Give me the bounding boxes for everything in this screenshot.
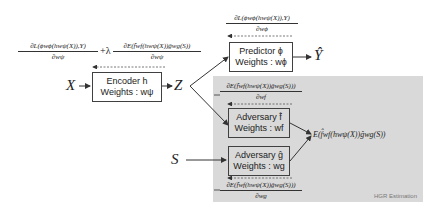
adversary-g-gradient: ∂E(f̂wf(hwψ(X))ĝwg(S))) ∂wg (220, 181, 302, 200)
adversary-g-weights: Weights : wg (229, 161, 289, 172)
encoder-box: Encoder h Weights : wψ (92, 72, 162, 102)
encoder-hgr-gradient: ∂E(f̂wf(hwψ(X))ĝwg(S)) ∂wψ (113, 42, 201, 61)
adversary-f-box: Adversary f̂ Weights : wf (228, 108, 290, 138)
expectation-output: E(f̂wf(hwψ(X))ĝwg(S)) (313, 130, 386, 139)
adversary-g-title: Adversary ĝ (229, 150, 289, 161)
latent-z: Z (174, 77, 182, 94)
plus-lambda: +λ (100, 45, 111, 56)
encoder-weights: Weights : wψ (93, 87, 161, 98)
adversary-g-box: Adversary ĝ Weights : wg (228, 146, 290, 176)
predictor-title: Predictor ϕ (230, 46, 292, 57)
sensitive-s: S (171, 151, 179, 168)
encoder-loss-gradient: ∂L(ϕwϕ(hwψ(X)),Y) ∂wψ (18, 42, 98, 61)
adversary-f-title: Adversary f̂ (229, 112, 289, 123)
predictor-gradient: ∂L(ϕwϕ(hwψ(X)),Y) ∂wϕ (226, 14, 298, 33)
predictor-weights: Weights : wϕ (230, 57, 292, 68)
input-x: X (66, 77, 75, 94)
adversary-f-gradient: ∂E(f̂wf(hwψ(X))ĝwg(S))) ∂wf (220, 82, 302, 101)
adversary-f-weights: Weights : wf (229, 123, 289, 134)
predictor-box: Predictor ϕ Weights : wϕ (229, 42, 293, 72)
encoder-title: Encoder h (93, 76, 161, 87)
prediction-y-hat: Ŷ (314, 47, 322, 64)
arrows-layer (0, 0, 428, 212)
